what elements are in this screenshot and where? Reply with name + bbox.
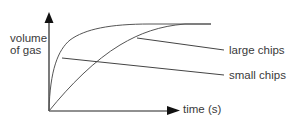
y-axis-label: volume of gas <box>10 32 46 56</box>
leader-line-large-chips <box>137 38 224 50</box>
x-axis-label: time (s) <box>183 103 221 115</box>
reaction-rate-graph: volume of gas time (s) large chips small… <box>0 0 288 125</box>
curve-large-chips <box>49 24 211 111</box>
x-axis-arrow-icon <box>167 106 180 115</box>
label-small-chips: small chips <box>229 69 286 81</box>
label-large-chips: large chips <box>229 44 285 56</box>
leader-line-small-chips <box>62 58 224 75</box>
y-axis-label-line-1: volume <box>10 32 46 44</box>
curve-small-chips <box>49 24 211 111</box>
y-axis-arrow-icon <box>45 12 54 23</box>
y-axis-label-line-2: of gas <box>10 44 46 56</box>
graph-canvas <box>0 0 288 125</box>
